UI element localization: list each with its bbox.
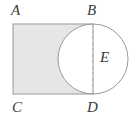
vertex-label-C: C — [12, 100, 22, 115]
vertex-label-D: D — [87, 100, 98, 115]
center-label-E: E — [100, 50, 109, 65]
vertex-label-B: B — [87, 3, 96, 18]
geometry-figure: A B E C D — [0, 0, 136, 125]
vertex-label-A: A — [11, 3, 20, 18]
